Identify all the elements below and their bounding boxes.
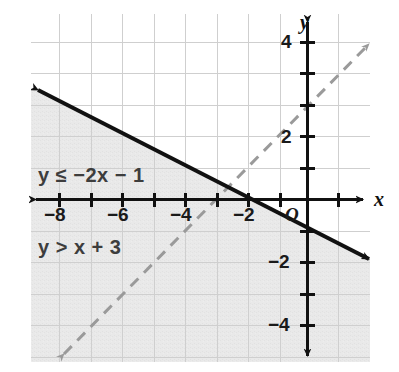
- y-tick-label-2: 2: [281, 127, 292, 146]
- x-tick-label-neg2: −2: [233, 205, 255, 224]
- x-axis-name-label: x: [374, 189, 384, 209]
- y-tick-label-neg4: −4: [268, 315, 290, 334]
- shaded-solution-region: [31, 88, 370, 362]
- graph-canvas: [0, 0, 399, 372]
- x-tick-label-neg4: −4: [170, 205, 192, 224]
- y-tick-label-4: 4: [281, 32, 292, 51]
- x-tick-label-neg6: −6: [107, 205, 129, 224]
- inequality-label-1: y ≤ −2x − 1: [38, 165, 145, 185]
- inequality-label-2: y > x + 3: [38, 237, 121, 257]
- x-tick-label-neg8: −8: [44, 205, 66, 224]
- y-tick-label-neg2: −2: [268, 252, 290, 271]
- y-axis-name-label: y: [300, 12, 309, 32]
- coordinate-plane-figure: −8 −6 −4 −2 O 4 2 −2 −4 x y y ≤ −2x − 1 …: [0, 0, 399, 372]
- origin-label: O: [285, 205, 299, 224]
